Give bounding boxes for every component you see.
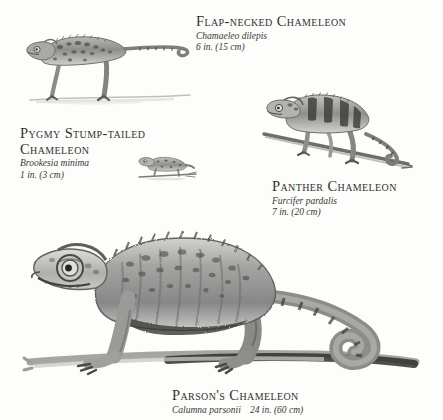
scientific-name-panther: Furcifer pardalis [272, 196, 397, 208]
tail [122, 47, 188, 56]
chameleon-comparison-plate: Flap-necked Chameleon Chamaeleo dilepis … [0, 0, 443, 420]
common-name-pygmy: Pygmy Stump-tailed Chameleon [20, 126, 185, 157]
size-panther: 7 in. (20 cm) [272, 207, 397, 219]
label-parsons-chameleon: Parson's Chameleon Calumna parsonii 24 i… [172, 388, 303, 416]
common-name-panther: Panther Chameleon [272, 179, 397, 195]
size-pygmy: 1 in. (3 cm) [20, 170, 185, 182]
scientific-name-parsons: Calumna parsonii [172, 405, 241, 417]
label-pygmy-stump-tailed-chameleon: Pygmy Stump-tailed Chameleon Brookesia m… [20, 126, 185, 181]
size-parsons: 24 in. (60 cm) [250, 405, 303, 417]
scientific-name-flap-necked: Chamaeleo dilepis [196, 31, 346, 43]
common-name-parsons: Parson's Chameleon [172, 388, 303, 404]
common-name-flap-necked: Flap-necked Chameleon [196, 14, 346, 30]
size-flap-necked: 6 in. (15 cm) [196, 42, 346, 54]
scientific-name-pygmy: Brookesia minima [20, 158, 185, 170]
parsons-chameleon-illustration [18, 222, 434, 394]
hind-leg [98, 60, 109, 100]
label-panther-chameleon: Panther Chameleon Furcifer pardalis 7 in… [272, 179, 397, 219]
label-flap-necked-chameleon: Flap-necked Chameleon Chamaeleo dilepis … [196, 14, 346, 54]
eye [57, 255, 83, 281]
parsons-sci-size-row: Calumna parsonii 24 in. (60 cm) [172, 404, 303, 417]
head [32, 245, 107, 290]
flap-necked-chameleon-illustration [22, 16, 208, 112]
panther-chameleon-illustration [258, 76, 430, 180]
